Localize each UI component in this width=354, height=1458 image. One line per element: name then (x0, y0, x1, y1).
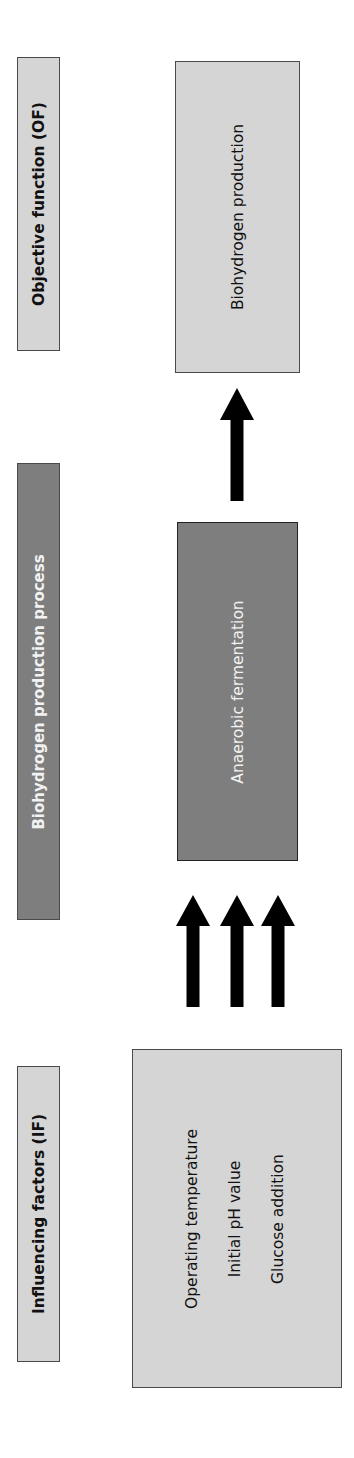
output-box-label: Biohydrogen production (229, 124, 247, 310)
factor-item: Glucose addition (257, 1129, 300, 1309)
arrow-up-icon (260, 895, 296, 1007)
output-box: Biohydrogen production (175, 61, 300, 373)
header-objective-function: Objective function (OF) (17, 57, 60, 351)
arrow-up-icon (219, 388, 255, 501)
factor-item: Initial pH value (214, 1129, 257, 1309)
header-objective-function-label: Objective function (OF) (30, 102, 48, 306)
process-box: Anaerobic fermentation (177, 522, 298, 861)
header-process-label: Biohydrogen production process (30, 554, 48, 829)
header-influencing-factors-label: Influencing factors (IF) (30, 1114, 48, 1314)
header-influencing-factors: Influencing factors (IF) (17, 1066, 60, 1362)
factors-list: Operating temperature Initial pH value G… (171, 1129, 300, 1309)
factors-box: Operating temperature Initial pH value G… (132, 1049, 342, 1388)
header-process: Biohydrogen production process (17, 463, 60, 920)
arrow-up-icon (175, 895, 211, 1007)
factor-item: Operating temperature (171, 1129, 214, 1309)
arrow-up-icon (219, 895, 255, 1007)
process-box-label: Anaerobic fermentation (229, 600, 247, 783)
